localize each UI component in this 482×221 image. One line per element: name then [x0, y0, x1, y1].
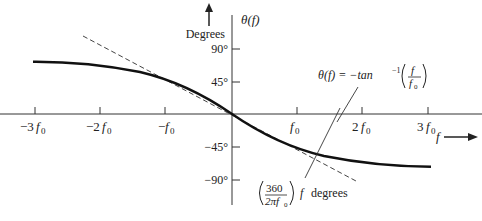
annotation-leader-1	[337, 87, 358, 122]
svg-text:−3: −3	[20, 119, 34, 134]
f-right-arrow-icon	[444, 133, 478, 141]
y-units-label: Degrees	[186, 27, 226, 41]
tick-label-45: 45°	[211, 75, 228, 89]
phase-response-diagram: θ(f) Degrees 90° 45° −45° −90° −3 f 0 −2…	[0, 0, 482, 221]
y-axis-title: θ(f)	[241, 12, 260, 27]
annotation-arctan-formula: θ(f) = −tan −1 f f 0	[318, 64, 426, 91]
annotation-linear-formula: 360 2πf 0 f degrees	[260, 181, 348, 209]
tick-label-3f0: 3 f 0	[417, 119, 436, 136]
linear-approx-dashed-line	[83, 36, 356, 181]
tick-label-m3f0: −3 f 0	[20, 119, 46, 136]
svg-text:0: 0	[414, 83, 418, 91]
svg-text:degrees: degrees	[311, 186, 348, 200]
svg-text:0: 0	[366, 126, 371, 136]
svg-text:2: 2	[352, 119, 359, 134]
tick-label-m45: −45°	[204, 140, 228, 154]
svg-text:3: 3	[417, 119, 424, 134]
tick-label-1f0: f 0	[290, 119, 300, 136]
annotation-leader-2	[305, 108, 340, 178]
svg-text:0: 0	[41, 126, 46, 136]
svg-text:−1: −1	[392, 66, 401, 75]
x-axis-title: f	[436, 129, 442, 144]
svg-text:f: f	[411, 64, 416, 76]
svg-text:2πf: 2πf	[265, 195, 281, 207]
svg-text:θ(f) = −tan: θ(f) = −tan	[318, 68, 373, 82]
svg-text:0: 0	[284, 201, 288, 209]
tick-label-m90: −90°	[204, 173, 228, 187]
tick-label-m2f0: −2 f 0	[86, 119, 112, 136]
tick-label-2f0: 2 f 0	[352, 119, 371, 136]
tick-label-90: 90°	[211, 42, 228, 56]
svg-text:0: 0	[107, 126, 112, 136]
degrees-up-arrow-icon	[205, 3, 213, 26]
svg-text:0: 0	[295, 126, 300, 136]
svg-text:360: 360	[266, 182, 283, 194]
svg-text:0: 0	[170, 126, 175, 136]
svg-text:−2: −2	[86, 119, 100, 134]
tick-label-m1f0: − f 0	[158, 119, 175, 136]
plot-canvas: θ(f) Degrees 90° 45° −45° −90° −3 f 0 −2…	[0, 0, 482, 221]
svg-text:f: f	[300, 186, 305, 200]
